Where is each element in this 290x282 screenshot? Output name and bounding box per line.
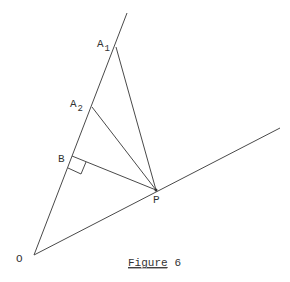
- lower-ray: [34, 128, 280, 255]
- segment-a1-p: [116, 47, 156, 190]
- caption-word: Figure: [128, 257, 168, 269]
- label-a2: A2: [70, 98, 83, 114]
- label-p: P: [153, 194, 160, 206]
- right-angle-marker: [68, 162, 86, 174]
- caption-number: 6: [175, 257, 182, 269]
- point-p-dot: [155, 189, 158, 192]
- figure-caption: Figure6: [128, 257, 181, 269]
- figure-6-diagram: A1 A2 B P O Figure6: [0, 0, 290, 282]
- label-o: O: [16, 253, 23, 265]
- label-b: B: [58, 153, 65, 165]
- label-a1: A1: [97, 38, 110, 54]
